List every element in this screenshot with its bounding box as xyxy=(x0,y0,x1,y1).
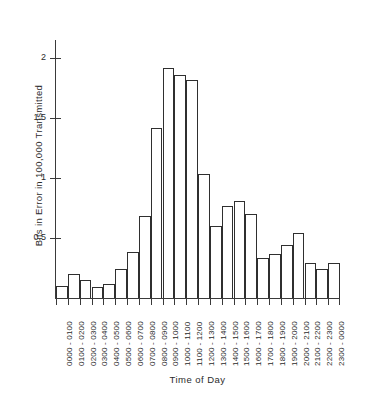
x-axis-tick-label: 2100 - 2200 xyxy=(313,321,322,366)
x-axis-tick xyxy=(80,299,81,305)
x-axis-tick xyxy=(163,299,164,305)
x-axis-tick xyxy=(127,299,128,305)
bar xyxy=(163,68,175,298)
bar xyxy=(92,287,104,298)
bar xyxy=(222,206,234,298)
x-axis-title: Time of Day xyxy=(55,374,340,385)
bar xyxy=(174,75,186,298)
bar xyxy=(115,269,127,298)
bar xyxy=(186,80,198,298)
x-axis-tick-label: 2200 - 2300 xyxy=(325,321,334,366)
x-axis-tick xyxy=(210,299,211,305)
bar xyxy=(139,216,151,298)
x-axis-tick-label: 1200 - 1300 xyxy=(207,321,216,366)
x-axis-ticks xyxy=(56,299,340,305)
x-axis-tick-label: 1100 - 1200 xyxy=(195,322,204,366)
bar xyxy=(293,233,305,298)
x-axis-tick xyxy=(222,299,223,305)
x-axis-tick-label: 0800 - 0900 xyxy=(160,321,169,366)
y-axis-title: Bits in Error in 100,000 Transmitted xyxy=(33,46,44,286)
x-axis-tick-label: 2300 - 0000 xyxy=(337,321,346,366)
x-axis-tick xyxy=(269,299,270,305)
x-axis-tick xyxy=(281,299,282,305)
x-axis-tick-label: 1500 - 1600 xyxy=(242,321,251,366)
x-axis-tick xyxy=(257,299,258,305)
x-axis-tick-label: 1400 - 1500 xyxy=(231,321,240,366)
bar xyxy=(198,174,210,298)
x-axis-tick-label: 0100 - 0200 xyxy=(77,321,86,366)
y-axis-tick-label: 1 xyxy=(41,172,46,182)
bar xyxy=(269,254,281,298)
bar xyxy=(305,263,317,298)
x-axis-tick xyxy=(245,299,246,305)
x-axis-tick xyxy=(56,299,57,305)
x-axis-tick-label: 1900 - 2000 xyxy=(290,321,299,366)
x-axis-tick-label: 1600 - 1700 xyxy=(254,321,263,366)
bar xyxy=(103,284,115,298)
y-axis-tick-label: 1.5 xyxy=(33,112,46,122)
x-axis-tick-label: 0000 - 0100 xyxy=(65,321,74,366)
x-axis-tick-label: 0600 - 0700 xyxy=(136,321,145,366)
x-axis-tick xyxy=(68,299,69,305)
x-axis-tick-label: 1000 - 1100 xyxy=(183,322,192,366)
x-axis-tick xyxy=(103,299,104,305)
x-axis-tick xyxy=(316,299,317,305)
x-axis-tick-labels: 0000 - 01000100 - 02000200 - 03000300 - … xyxy=(56,306,340,368)
bar xyxy=(56,286,68,298)
y-axis-tick-label: 2 xyxy=(41,52,46,62)
bar xyxy=(210,226,222,298)
bar xyxy=(80,280,92,298)
x-axis-tick xyxy=(305,299,306,305)
x-axis-tick-label: 1300 - 1400 xyxy=(219,321,228,366)
x-axis-tick-label: 1800 - 1900 xyxy=(278,321,287,366)
x-axis-tick-label: 1700 - 1800 xyxy=(266,321,275,366)
x-axis-tick-label: 2000 - 2100 xyxy=(302,321,311,366)
x-axis-tick xyxy=(139,299,140,305)
x-axis-tick xyxy=(92,299,93,305)
x-axis-tick xyxy=(174,299,175,305)
x-axis-tick-label: 0500 - 0600 xyxy=(124,321,133,366)
bar xyxy=(328,263,340,298)
x-axis-tick xyxy=(186,299,187,305)
bar xyxy=(257,258,269,298)
chart-figure: Bits in Error in 100,000 Transmitted 0.5… xyxy=(0,0,366,403)
bar xyxy=(127,252,139,298)
x-axis-tick xyxy=(198,299,199,305)
x-axis-tick-label: 0400 - 0500 xyxy=(112,321,121,366)
y-axis-tick-label: 0.5 xyxy=(33,232,46,242)
bar xyxy=(68,274,80,298)
x-axis-tick xyxy=(151,299,152,305)
x-axis-tick-label: 0900 - 1000 xyxy=(171,321,180,366)
x-axis-tick-label: 0300 - 0400 xyxy=(100,321,109,366)
bar xyxy=(316,269,328,298)
x-axis-tick xyxy=(234,299,235,305)
plot-area: 0.511.52 0000 - 01000100 - 02000200 - 03… xyxy=(55,40,340,298)
bar-series xyxy=(56,40,340,298)
x-axis-tick xyxy=(328,299,329,305)
x-axis-tick-label: 0700 - 0800 xyxy=(148,321,157,366)
x-axis-tick xyxy=(339,299,340,305)
x-axis-tick xyxy=(115,299,116,305)
bar xyxy=(234,201,246,298)
bar xyxy=(151,128,163,298)
bar xyxy=(245,214,257,298)
bar xyxy=(281,245,293,298)
x-axis-tick xyxy=(293,299,294,305)
x-axis-tick-label: 0200 - 0300 xyxy=(89,321,98,366)
